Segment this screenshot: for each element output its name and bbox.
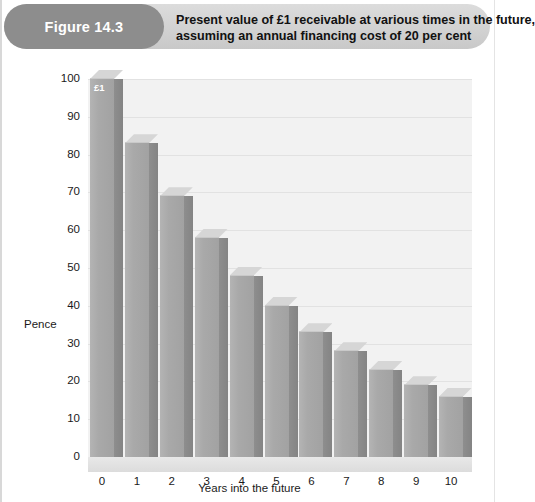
plot-area: £1 [88,72,472,464]
figure-header: Figure 14.3 Present value of £1 receivab… [4,4,490,49]
y-tick-label: 50 [40,261,80,273]
bar [299,323,332,457]
bar [369,361,402,457]
bar-side-face [184,196,193,457]
bar: £1 [90,70,123,457]
bar [125,134,158,457]
bar-side-face [149,143,158,457]
bar-front-face [125,142,149,457]
value-annotation: £1 [94,82,105,93]
bar [265,297,298,457]
figure-number-pill: Figure 14.3 [4,4,164,49]
bar-front-face [230,275,254,457]
y-tick-label: 30 [40,337,80,349]
bar-side-face [289,306,298,457]
y-tick-label: 60 [40,223,80,235]
bar [404,376,437,457]
bar [195,229,228,457]
y-axis-title: Pence [24,318,57,330]
y-tick-label: 10 [40,412,80,424]
bar-front-face [334,350,358,457]
gridline [88,117,472,118]
bar [439,388,472,457]
figure-number-label: Figure 14.3 [45,19,124,35]
y-tick-label: 80 [40,148,80,160]
bar-front-face [160,195,184,457]
bar-front-face [299,331,323,457]
bar-front-face [439,396,463,457]
bar-front-face [195,237,219,457]
y-tick-label: 0 [40,450,80,462]
y-tick-label: 100 [40,72,80,84]
y-tick-label: 90 [40,110,80,122]
bar-side-face [463,397,472,457]
gridline [88,79,472,80]
bar-front-face: £1 [90,78,114,457]
bar-side-face [114,79,123,457]
bar-side-face [358,351,367,457]
x-axis-title: Years into the future [2,482,497,494]
y-tick-label: 70 [40,185,80,197]
bar [160,187,193,457]
plot-floor [88,457,472,472]
bar-front-face [369,369,393,457]
bar-side-face [393,370,402,457]
bar-side-face [323,332,332,457]
bar [334,342,367,457]
bar-side-face [254,276,263,457]
figure-title-line-2: assuming an annual financing cost of 20 … [176,28,486,44]
bar-front-face [265,305,289,457]
bar-side-face [428,385,437,457]
y-tick-label: 20 [40,374,80,386]
bar [230,267,263,457]
y-tick-label: 40 [40,299,80,311]
chart-area: Pence 0102030405060708090100 £1 01234567… [2,50,497,502]
figure-title-line-1: Present value of £1 receivable at variou… [176,12,486,28]
bar-side-face [219,238,228,457]
bar-front-face [404,384,428,457]
figure-title: Present value of £1 receivable at variou… [176,8,486,48]
